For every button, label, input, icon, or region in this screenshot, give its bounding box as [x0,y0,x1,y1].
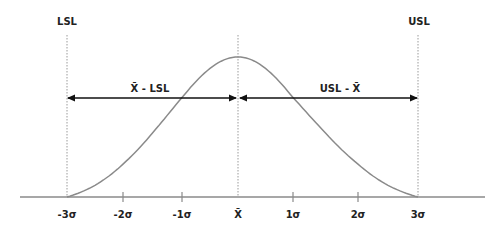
usl-label: USL [408,16,430,27]
tick-label: -1σ [173,209,192,220]
distribution-diagram: -3σ-2σ-1σX̄1σ2σ3σ LSL USL X̄ - LSL USL -… [0,0,503,231]
lsl-label: LSL [57,16,78,27]
tick-label: -3σ [58,209,77,220]
tick-label: -2σ [114,209,133,220]
tick-label: X̄ [234,208,242,220]
tick-label: 1σ [286,209,301,220]
usl-minus-mean-label: USL - X̄ [320,82,361,94]
axis-ticks: -3σ-2σ-1σX̄1σ2σ3σ [58,192,426,220]
tick-label: 3σ [411,209,426,220]
tick-label: 2σ [351,209,366,220]
mean-minus-lsl-label: X̄ - LSL [131,82,170,94]
normal-distribution-curve [67,57,418,197]
